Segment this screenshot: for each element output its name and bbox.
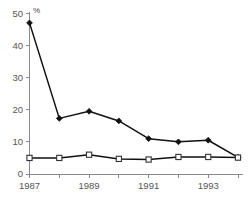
data-point-marker xyxy=(56,115,62,121)
data-point-marker xyxy=(86,108,92,114)
data-point-marker xyxy=(205,137,211,143)
x-tick-label: 1987 xyxy=(19,180,40,191)
x-tick-label: 1993 xyxy=(198,180,219,191)
data-point-marker xyxy=(27,20,33,26)
y-tick-label: 20 xyxy=(12,104,23,115)
y-tick-label: 30 xyxy=(12,72,23,83)
data-point-marker xyxy=(116,156,121,161)
data-point-marker xyxy=(146,157,151,162)
x-tick-label: 1989 xyxy=(79,180,100,191)
x-tick-label: 1991 xyxy=(138,180,159,191)
y-tick-label: 10 xyxy=(12,136,23,147)
series-line-series-filled-diamond xyxy=(30,23,239,157)
y-tick-label: 50 xyxy=(12,8,23,19)
chart-axes xyxy=(30,12,244,175)
x-axis-ticks: 1987198919911993 xyxy=(19,174,238,191)
data-point-marker xyxy=(206,154,211,159)
data-point-marker xyxy=(176,139,182,145)
y-tick-label: 40 xyxy=(12,40,23,51)
y-axis-unit-label: % xyxy=(33,6,40,15)
data-point-marker xyxy=(176,154,181,159)
data-point-marker xyxy=(57,155,62,160)
line-chart: 01020304050 1987198919911993 % xyxy=(0,0,250,203)
y-axis-ticks: 01020304050 xyxy=(12,8,29,180)
data-point-marker xyxy=(86,152,91,157)
y-tick-label: 0 xyxy=(18,168,23,179)
data-point-marker xyxy=(27,155,32,160)
data-point-marker xyxy=(235,155,240,160)
chart-container: 01020304050 1987198919911993 % xyxy=(0,0,250,203)
chart-series xyxy=(27,20,241,162)
